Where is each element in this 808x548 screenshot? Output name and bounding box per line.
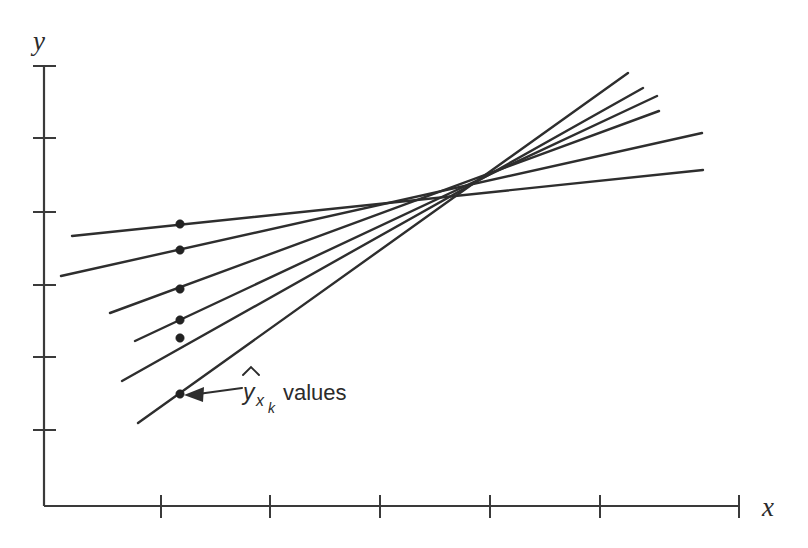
axes-group xyxy=(44,66,739,506)
regression-lines-group xyxy=(61,73,703,423)
arrow-shaft xyxy=(198,388,242,394)
annotation-symbol-y: y xyxy=(241,379,256,405)
regression-line-6 xyxy=(138,73,628,423)
annotation-subscript-x: x xyxy=(255,392,265,409)
x-axis-label: x xyxy=(761,492,774,522)
fitted-value-dot xyxy=(176,220,184,228)
annotation-arrow xyxy=(184,387,242,402)
hat-accent-icon xyxy=(243,367,259,375)
fitted-value-dot xyxy=(176,246,184,254)
figure-canvas: y x k values y x xyxy=(0,0,808,548)
regression-fan-chart: y x k values y x xyxy=(0,0,808,548)
annotation-suffix-values: values xyxy=(283,380,347,405)
regression-line-4 xyxy=(135,96,657,341)
fitted-value-dot xyxy=(176,390,184,398)
annotation-label: y x k values xyxy=(241,367,347,416)
regression-line-3 xyxy=(110,111,659,313)
fitted-value-dot xyxy=(176,285,184,293)
fitted-value-dot xyxy=(176,316,184,324)
regression-line-5 xyxy=(122,88,643,381)
fitted-value-markers xyxy=(176,220,184,398)
annotation-subsubscript-k: k xyxy=(268,400,276,416)
y-axis-label: y xyxy=(30,26,45,56)
fitted-value-dot xyxy=(176,334,184,342)
regression-line-2 xyxy=(61,133,702,276)
